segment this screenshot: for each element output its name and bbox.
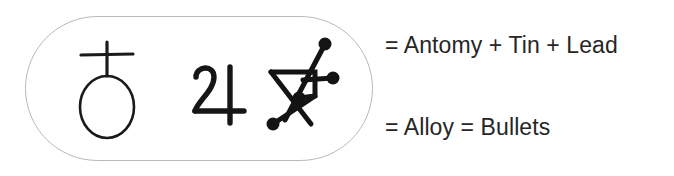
- symbol-group: [25, 16, 373, 161]
- annotation-components: = Antomy + Tin + Lead: [385, 34, 618, 57]
- antimony-symbol-icon: [73, 34, 141, 144]
- figure-canvas: = Antomy + Tin + Lead = Alloy = Bullets: [0, 0, 674, 176]
- lead-symbol-icon: [263, 34, 345, 136]
- tin-jupiter-symbol-icon: [190, 61, 250, 129]
- annotation-result: = Alloy = Bullets: [385, 116, 550, 139]
